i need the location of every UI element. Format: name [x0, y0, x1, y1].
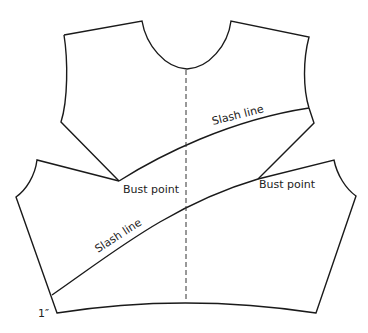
- upper-slash-label: Slash line: [211, 102, 266, 127]
- measurement-label: 1″: [38, 307, 49, 320]
- lower-slash-label: Slash line: [93, 216, 145, 256]
- lower-slash-line: [52, 179, 258, 295]
- pattern-diagram: Slash line Bust point Bust point Slash l…: [0, 0, 368, 333]
- pattern-canvas: Slash line Bust point Bust point Slash l…: [0, 0, 368, 333]
- bust-point-label-right: Bust point: [259, 178, 316, 191]
- bust-point-label-left: Bust point: [123, 183, 180, 196]
- upper-bodice-outline: [61, 21, 314, 181]
